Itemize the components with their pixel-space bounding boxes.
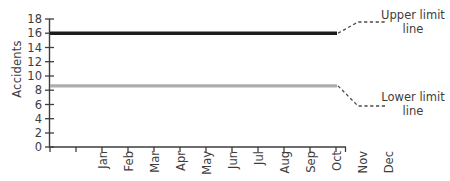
x-tick-label-nov: Nov [356,151,370,181]
x-tick-label-feb: Feb [122,151,136,181]
x-tick-label-aug: Aug [278,151,292,181]
x-tick-label-mar: Mar [148,151,162,181]
x-tick-label-may: May [200,151,214,181]
x-tick-label-dec: Dec [382,151,396,181]
upper-limit-annotation-line2: line [376,23,450,37]
lower-limit-annotation-line1: Lower limit [376,91,450,105]
x-tick-label-sep: Sep [304,151,318,181]
upper-limit-annotation-line1: Upper limit [376,9,450,23]
x-tick-label-jun: Jun [226,151,240,181]
x-tick-label-jan: Jan [96,151,110,181]
x-axis-ticks [50,147,346,152]
upper-limit-annotation-label: Upper limit line [376,9,450,36]
lower-limit-annotation-label: Lower limit line [376,91,450,118]
accidents-control-chart: Accidents 18 16 14 12 10 8 6 4 2 0 [0,0,450,181]
x-tick-label-jul: Jul [252,151,266,181]
x-tick-label-apr: Apr [174,151,188,181]
x-tick-label-oct: Oct [330,151,344,181]
lower-limit-annotation-line2: line [376,105,450,119]
